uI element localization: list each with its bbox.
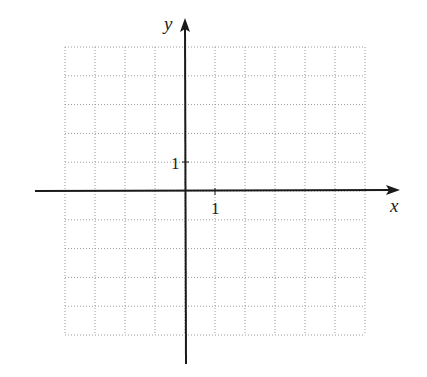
x-axis <box>35 185 400 195</box>
y-axis-label: y <box>162 13 173 34</box>
x-axis-label: x <box>389 195 399 216</box>
coordinate-plane: y x 1 1 <box>0 0 427 377</box>
x-unit-label: 1 <box>211 199 220 218</box>
y-unit-label: 1 <box>171 154 180 173</box>
